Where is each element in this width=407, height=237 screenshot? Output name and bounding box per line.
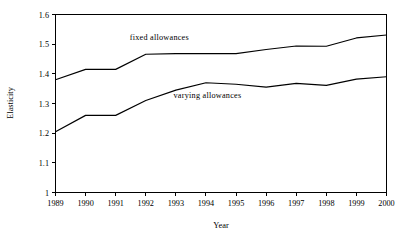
y-tick-label: 1.6 — [39, 11, 49, 20]
y-tick-label: 1.2 — [39, 129, 49, 138]
series-label-varying-allowances: varying allowances — [173, 91, 241, 100]
x-tick-label: 1993 — [168, 199, 184, 208]
series-label-fixed-allowances: fixed allowances — [130, 33, 189, 42]
axis-frame — [56, 15, 387, 193]
x-tick-label: 1989 — [47, 199, 63, 208]
y-axis-tick-labels: 11.11.21.31.41.51.6 — [39, 11, 49, 198]
plot-frame — [56, 15, 387, 193]
elasticity-line-chart: 11.11.21.31.41.51.6 19891990199119921993… — [0, 0, 407, 237]
x-tick-label: 1995 — [228, 199, 244, 208]
x-tick-label: 1999 — [348, 199, 364, 208]
x-tick-label: 1991 — [107, 199, 123, 208]
x-tick-label: 1990 — [77, 199, 93, 208]
x-axis-tick-labels: 1989199019911992199319941995199619971998… — [47, 199, 394, 208]
x-tick-label: 1997 — [288, 199, 304, 208]
data-series-group — [56, 35, 387, 132]
chart-canvas: 11.11.21.31.41.51.6 19891990199119921993… — [0, 0, 407, 237]
y-tick-label: 1.1 — [39, 159, 49, 168]
y-tick-label: 1.3 — [39, 100, 49, 109]
y-tick-label: 1.4 — [39, 70, 49, 79]
y-axis-title: Elasticity — [6, 86, 15, 118]
y-axis-ticks — [52, 15, 56, 193]
x-tick-label: 1994 — [198, 199, 214, 208]
x-tick-label: 2000 — [378, 199, 394, 208]
series-line-fixed-allowances — [56, 35, 387, 80]
y-tick-label: 1 — [45, 189, 49, 198]
series-annotations: fixed allowancesvarying allowances — [130, 33, 242, 100]
x-tick-label: 1996 — [258, 199, 274, 208]
x-tick-label: 1992 — [138, 199, 154, 208]
x-tick-label: 1998 — [318, 199, 334, 208]
x-axis-ticks — [56, 193, 387, 197]
x-axis-title: Year — [213, 221, 229, 230]
y-tick-label: 1.5 — [39, 40, 49, 49]
series-line-varying-allowances — [56, 77, 387, 132]
